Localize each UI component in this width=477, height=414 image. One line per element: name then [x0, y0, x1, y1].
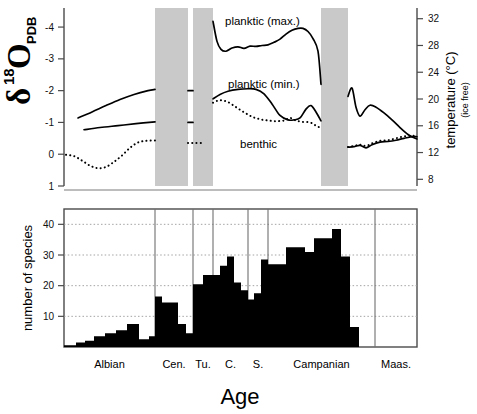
histogram-y-axis-title: number of species: [20, 224, 35, 331]
top-left-tick-label: 0: [48, 149, 54, 160]
top-left-tick-label: -4: [45, 22, 54, 33]
right-axis-title: temperature (°C): [443, 52, 458, 149]
oxygen-symbol: O: [1, 43, 37, 69]
histogram-y-tick-label: 20: [43, 280, 55, 291]
top-right-tick-label: 24: [428, 67, 440, 78]
histogram-y-tick-label: 30: [43, 250, 55, 261]
label-planktic-max: planktic (max.): [225, 15, 300, 27]
delta-superscript-18: 18: [0, 68, 17, 85]
top-left-tick-label: 1: [48, 181, 54, 192]
stage-label-c: C.: [225, 358, 236, 370]
curve-planktic-min-segment-4: [348, 88, 417, 139]
curve-benthic-segment-3: [213, 100, 321, 128]
stage-label-campanian: Campanian: [293, 358, 349, 370]
histogram-x-axis-title: Age: [220, 384, 259, 409]
histogram-y-ticks: 10203040: [43, 219, 64, 322]
top-left-tick-label: -1: [45, 117, 54, 128]
histogram-y-tick-label: 10: [43, 311, 55, 322]
curve-benthic-upper-segment-4: [348, 137, 417, 148]
bottom-panel: 10203040 AlbianCen.Tu.C.S.CampanianMaas.…: [20, 209, 417, 409]
scientific-figure: -4-3-2-101 3228242016128 planktic (max.)…: [0, 0, 477, 414]
shaded-band-1: [155, 8, 188, 186]
delta-symbol: δ: [1, 88, 37, 105]
curve-planktic-max-: [213, 21, 321, 84]
stage-labels-group: AlbianCen.Tu.C.S.CampanianMaas.: [94, 358, 411, 370]
label-planktic-min: planktic (min.): [228, 78, 300, 90]
curve-planktic-low-segment-1: [84, 122, 155, 130]
top-right-tick-label: 28: [428, 40, 440, 51]
label-benthic: benthic: [240, 138, 277, 150]
top-right-tick-label: 12: [428, 147, 440, 158]
right-axis-subtitle: (ice free): [460, 82, 470, 118]
top-right-tick-group: 3228242016128: [417, 13, 440, 185]
stage-label-tu: Tu.: [195, 358, 211, 370]
figure-container: -4-3-2-101 3228242016128 planktic (max.)…: [0, 0, 477, 414]
shaded-band-2: [193, 8, 213, 186]
top-right-tick-label: 8: [428, 174, 434, 185]
stage-label-maas: Maas.: [381, 358, 411, 370]
left-axis-title: δ 18 O PDB: [0, 17, 39, 105]
top-right-tick-label: 16: [428, 120, 440, 131]
top-left-tick-label: -3: [45, 53, 54, 64]
stage-label-albian: Albian: [94, 358, 125, 370]
shaded-band-3: [321, 8, 348, 186]
stage-label-cen: Cen.: [162, 358, 185, 370]
top-right-tick-label: 20: [428, 94, 440, 105]
top-left-tick-label: -2: [45, 85, 54, 96]
top-right-tick-label: 32: [428, 13, 440, 24]
curve-planktic-min-segment-3: [213, 89, 321, 121]
right-axis-title-group: temperature (°C) (ice free): [443, 52, 470, 149]
top-left-tick-group: -4-3-2-101: [45, 22, 64, 192]
curve-planktic-min-segment-1: [78, 89, 155, 118]
delta-subscript-pdb: PDB: [24, 17, 39, 44]
histogram-y-tick-label: 40: [43, 219, 55, 230]
curve-benthic-segment-1: [66, 141, 155, 169]
y-axis-title-group: number of species: [20, 224, 35, 331]
top-panel: -4-3-2-101 3228242016128 planktic (max.)…: [0, 8, 470, 192]
stage-label-s: S.: [253, 358, 263, 370]
shaded-bands-group: [155, 8, 348, 186]
